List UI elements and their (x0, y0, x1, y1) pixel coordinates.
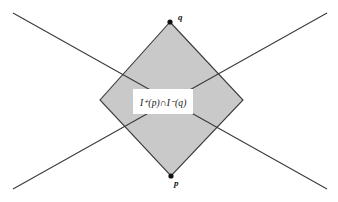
event-point-q (167, 19, 172, 24)
event-point-p (168, 173, 173, 178)
event-label-q: q (178, 13, 183, 22)
event-label-p: p (174, 179, 179, 188)
region-label-box: I⁺(p)∩I⁻(q) (133, 89, 193, 114)
region-label-text: I⁺(p)∩I⁻(q) (140, 98, 186, 108)
causal-diamond-figure: q p I⁺(p)∩I⁻(q) (0, 0, 338, 202)
